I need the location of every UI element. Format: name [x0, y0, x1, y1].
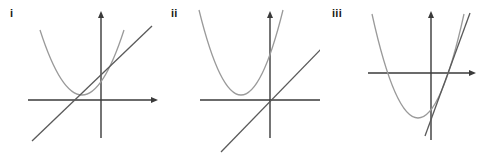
plot-ii	[160, 0, 320, 156]
y-axis-ii	[267, 11, 273, 138]
y-axis-arrow-icon-i	[98, 11, 104, 18]
plot-i	[0, 0, 160, 156]
line-curve-iii	[425, 13, 470, 136]
x-axis-i	[28, 97, 158, 103]
y-axis-arrow-icon-iii	[428, 11, 434, 18]
x-axis-arrow-icon-iii	[469, 70, 476, 76]
panel-iii: iii	[320, 0, 479, 156]
parabola-curve-i	[40, 30, 124, 95]
figure-container: i ii	[0, 0, 479, 156]
panel-i: i	[0, 0, 160, 156]
panel-ii: ii	[160, 0, 320, 156]
line-curve-i	[32, 26, 152, 141]
x-axis-arrow-icon-i	[151, 97, 158, 103]
y-axis-arrow-icon-ii	[267, 11, 273, 18]
x-axis-ii	[200, 97, 320, 103]
plot-iii	[320, 0, 479, 156]
x-axis-iii	[368, 70, 476, 76]
